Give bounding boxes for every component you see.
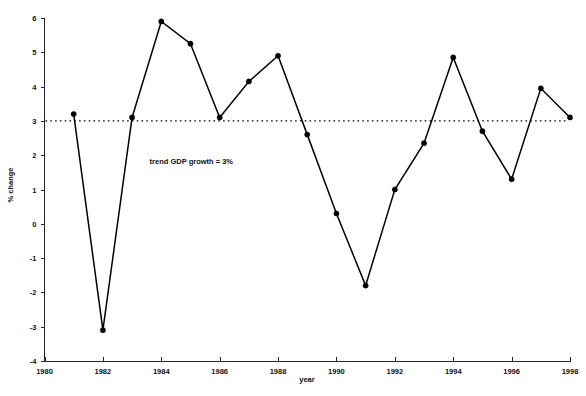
- gdp-series-line: [74, 21, 570, 330]
- data-point-marker: [129, 115, 134, 120]
- data-point-marker: [392, 187, 397, 192]
- data-point-marker: [159, 19, 164, 24]
- trend-annotation-label: trend GDP growth = 3%: [150, 157, 234, 166]
- y-axis-group: -4-3-2-10123456: [30, 14, 45, 366]
- data-point-marker: [567, 115, 572, 120]
- x-tick-label: 1986: [211, 367, 228, 376]
- x-tick-group: 1980198219841986198819901992199419961998: [36, 357, 578, 376]
- x-tick-label: 1980: [36, 367, 53, 376]
- y-tick-label: 1: [32, 186, 36, 195]
- data-point-marker: [334, 211, 339, 216]
- x-tick-label: 1982: [95, 367, 112, 376]
- y-tick-label: -1: [30, 254, 37, 263]
- y-tick-label: -2: [30, 288, 37, 297]
- x-tick-label: 1994: [445, 367, 463, 376]
- x-tick-label: 1992: [386, 367, 403, 376]
- x-tick-label: 1990: [328, 367, 345, 376]
- y-axis-title: % change: [6, 167, 15, 202]
- data-point-marker: [188, 41, 193, 46]
- data-point-marker: [363, 283, 368, 288]
- x-tick-label: 1988: [270, 367, 287, 376]
- data-point-marker: [480, 129, 485, 134]
- y-tick-label: 4: [32, 83, 37, 92]
- data-point-marker: [275, 53, 280, 58]
- data-point-marker: [217, 115, 222, 120]
- data-point-marker: [538, 86, 543, 91]
- data-point-marker: [71, 111, 76, 116]
- data-point-marker: [421, 141, 426, 146]
- y-tick-group: -4-3-2-10123456: [30, 14, 45, 366]
- data-point-marker: [451, 55, 456, 60]
- y-tick-label: 6: [32, 14, 36, 23]
- y-tick-label: 2: [32, 151, 36, 160]
- x-tick-label: 1984: [153, 367, 171, 376]
- x-tick-label: 1996: [503, 367, 520, 376]
- x-tick-label: 1998: [562, 367, 579, 376]
- data-point-marker: [100, 328, 105, 333]
- chart-canvas: -4-3-2-10123456 198019821984198619881990…: [0, 0, 586, 396]
- data-point-marker: [305, 132, 310, 137]
- y-tick-label: 0: [32, 220, 36, 229]
- y-tick-label: 3: [32, 117, 36, 126]
- y-tick-label: -3: [30, 323, 37, 332]
- data-point-marker: [246, 79, 251, 84]
- y-tick-label: 5: [32, 48, 36, 57]
- x-axis-title: year: [299, 375, 315, 384]
- y-tick-label: -4: [30, 357, 37, 366]
- x-axis-group: 1980198219841986198819901992199419961998: [36, 357, 578, 376]
- series-group: [71, 19, 573, 333]
- gdp-growth-line-chart: -4-3-2-10123456 198019821984198619881990…: [0, 0, 586, 396]
- data-point-marker: [509, 177, 514, 182]
